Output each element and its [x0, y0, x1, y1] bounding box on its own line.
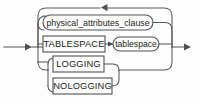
branch-tablespace[interactable]: TABLESPACE tablespace	[43, 36, 172, 52]
exit-arrow-icon	[184, 44, 191, 51]
railroad-diagram-svg: physical_attributes_clause TABLESPACE ta…	[0, 0, 198, 102]
row4-exit-rail	[112, 70, 119, 86]
physical-attributes-clause-label: physical_attributes_clause	[46, 18, 149, 28]
fork-down-to-lower	[38, 62, 48, 70]
nologging-keyword-label: NOLOGGING	[53, 81, 112, 91]
branch-nologging[interactable]: NOLOGGING	[53, 70, 119, 94]
entry-rail-group	[4, 44, 38, 51]
tablespace-value-label: tablespace	[115, 39, 157, 49]
syntax-diagram: physical_attributes_clause TABLESPACE ta…	[0, 0, 198, 102]
branch-logging[interactable]: LOGGING	[53, 56, 119, 72]
logging-keyword-label: LOGGING	[56, 59, 100, 69]
tablespace-keyword-label: TABLESPACE	[43, 39, 104, 49]
exit-rail-group	[172, 44, 191, 51]
entry-arrow-icon	[25, 44, 32, 51]
row3-exit-rail	[104, 64, 119, 70]
